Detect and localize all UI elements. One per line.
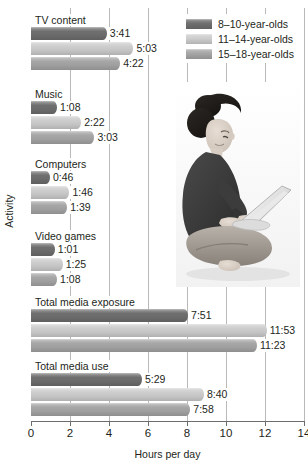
bar [31,324,263,337]
bar [31,27,103,40]
bar [31,388,200,401]
bar-value-label: 2:22 [82,116,106,129]
bar-value-label: 8:40 [205,388,229,401]
bar-value-label: 0:46 [51,171,75,184]
category-label: TV content [34,14,88,26]
bar [31,116,77,129]
bar-value-label: 1:01 [56,243,80,256]
x-tick [70,421,71,426]
x-tick [304,421,305,426]
bar-value-label: 4:22 [121,57,145,70]
legend-label: 11–14-year-olds [218,33,293,45]
bar [31,171,46,184]
bar-value-label: 3:41 [108,27,132,40]
legend-label: 8–10-year-olds [218,18,288,30]
legend-swatch-8-10-icon [186,19,212,29]
bar [31,131,90,144]
bar-value-label: 1:08 [58,101,82,114]
legend: 8–10-year-olds 11–14-year-olds 15–18-yea… [184,14,297,63]
x-tick [187,421,188,426]
gridline [148,8,149,421]
bar [31,273,53,286]
bar-value-label: 5:03 [134,42,158,55]
bar-value-label: 3:03 [95,131,119,144]
x-tick [265,421,266,426]
x-tick-label: 2 [57,427,83,439]
bar [31,42,129,55]
legend-label: 15–18-year-olds [218,48,294,60]
photo-woman-with-laptop [176,82,300,287]
x-tick-label: 0 [18,427,44,439]
bar-value-label: 11:23 [258,339,288,352]
bar [31,201,63,214]
category-label: Computers [34,158,88,170]
x-tick-label: 10 [213,427,239,439]
category-label: Video games [34,230,98,242]
bar-value-label: 1:08 [58,273,82,286]
bar [31,57,116,70]
bar [31,258,59,271]
gridline [304,8,305,421]
bar-value-label: 7:58 [191,403,215,416]
x-tick-label: 14 [291,427,308,439]
legend-swatch-11-14-icon [186,34,212,44]
x-tick-label: 12 [252,427,278,439]
x-tick-label: 6 [135,427,161,439]
category-label: Music [34,88,64,100]
bar-chart-figure: 8–10-year-olds 11–14-year-olds 15–18-yea… [0,0,308,468]
x-axis-title: Hours per day [31,448,304,460]
x-tick-label: 8 [174,427,200,439]
bar-value-label: 1:39 [68,201,92,214]
legend-item: 15–18-year-olds [186,46,294,61]
bar [31,243,51,256]
category-label: Total media exposure [34,296,137,308]
x-tick [148,421,149,426]
category-label: Total media use [34,360,111,372]
x-tick [109,421,110,426]
bar [31,309,184,322]
x-tick [31,421,32,426]
bar [31,339,253,352]
bar [31,186,65,199]
x-axis-line [31,421,304,422]
bar-value-label: 1:25 [64,258,88,271]
x-tick-label: 4 [96,427,122,439]
x-tick [226,421,227,426]
bar-value-label: 5:29 [143,373,167,386]
bar-value-label: 11:53 [268,324,298,337]
bar-value-label: 7:51 [189,309,213,322]
bar [31,403,186,416]
y-axis-title: Activity [3,176,15,246]
bar-value-label: 1:46 [70,186,94,199]
bar [31,373,138,386]
legend-item: 11–14-year-olds [186,31,294,46]
legend-item: 8–10-year-olds [186,16,294,31]
bar [31,101,53,114]
legend-swatch-15-18-icon [186,49,212,59]
